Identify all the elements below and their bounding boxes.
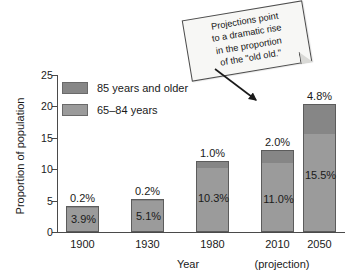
y-axis-line <box>57 75 58 233</box>
bar-segment-younger-2050 <box>304 134 335 231</box>
bar-top-label-1980: 1.0% <box>185 147 240 159</box>
x-axis-line <box>57 232 345 233</box>
x-tick-label-2050: 2050 <box>292 238 347 250</box>
legend-item-younger: 65–84 years <box>62 103 188 116</box>
projection-callout-note: Projections point to a dramatic rise in … <box>182 0 313 81</box>
legend-item-older: 85 years and older <box>62 81 188 94</box>
bar-inside-label-2010: 11.0% <box>262 193 295 205</box>
legend-swatch-older-icon <box>62 82 88 94</box>
y-axis-title: Proportion of population <box>14 76 26 236</box>
bar-stack-1900: 3.9% <box>66 206 99 232</box>
bar-stack-1930: 5.1% <box>131 199 164 232</box>
bar-top-label-1900: 0.2% <box>55 192 110 204</box>
bar-stack-1980: 10.3% <box>196 161 229 232</box>
bar-stack-2050: 15.5% <box>303 104 336 232</box>
x-tick-label-1900: 1900 <box>55 238 110 250</box>
bar-inside-label-1930: 5.1% <box>132 210 165 222</box>
bar-top-label-2010: 2.0% <box>250 136 305 148</box>
bar-inside-label-2050: 15.5% <box>304 169 337 181</box>
legend-label-younger: 65–84 years <box>97 104 158 116</box>
legend-swatch-younger-icon <box>62 104 88 116</box>
bar-stack-2010: 11.0% <box>261 150 294 232</box>
x-tick-label-1980: 1980 <box>185 238 240 250</box>
legend-label-older: 85 years and older <box>97 82 188 94</box>
age-distribution-stacked-bar-chart: 25 20 15 10 5 0 Proportion of population… <box>0 0 355 280</box>
bar-inside-label-1980: 10.3% <box>197 192 230 204</box>
bar-top-label-2050: 4.8% <box>292 90 347 102</box>
legend: 85 years and older 65–84 years <box>62 81 188 125</box>
bar-segment-older-2050 <box>304 105 335 135</box>
bar-top-label-1930: 0.2% <box>120 185 175 197</box>
x-axis-title: Year <box>158 258 218 270</box>
x-tick-label-1930: 1930 <box>120 238 175 250</box>
bar-inside-label-1900: 3.9% <box>67 213 100 225</box>
x-axis-projection-label: (projection) <box>232 258 332 270</box>
